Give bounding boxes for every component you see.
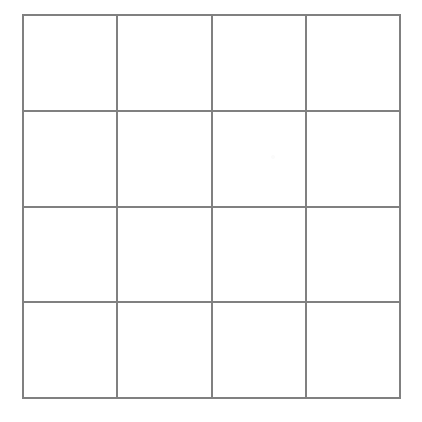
grid-cell-r1c4[interactable] [307,16,401,112]
grid-cell-r2c3[interactable] [213,112,307,208]
canvas [0,0,422,422]
grid-cell-r4c2[interactable] [118,303,212,399]
grid-cell-r2c4[interactable] [307,112,401,208]
grid-cell-r3c4[interactable] [307,208,401,304]
grid-cell-r3c2[interactable] [118,208,212,304]
image-artifact-speck [271,155,275,159]
grid-cell-r2c2[interactable] [118,112,212,208]
grid-cell-r1c3[interactable] [213,16,307,112]
grid-cell-r4c4[interactable] [307,303,401,399]
grid-cell-r4c1[interactable] [24,303,118,399]
grid-cell-r1c2[interactable] [118,16,212,112]
grid-cell-r4c3[interactable] [213,303,307,399]
grid-cell-r3c1[interactable] [24,208,118,304]
grid-cell-r3c3[interactable] [213,208,307,304]
grid-figure [22,14,401,399]
grid-cell-r1c1[interactable] [24,16,118,112]
grid-cell-r2c1[interactable] [24,112,118,208]
